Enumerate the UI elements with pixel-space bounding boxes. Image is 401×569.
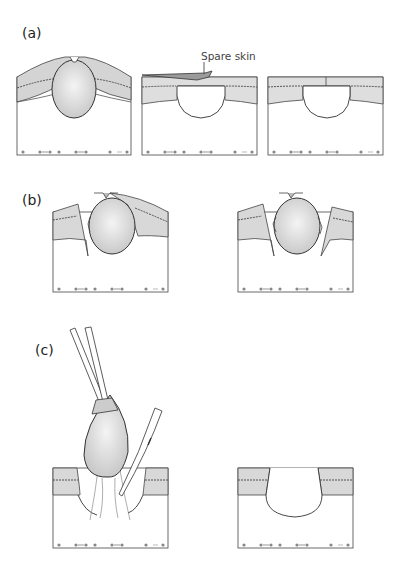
panel-b1 [53,193,168,292]
panel-c2 [238,468,353,548]
panel-a1 [17,57,131,155]
panel-b2 [238,193,353,292]
panel-a3 [268,77,383,155]
panel-a2 [142,62,257,155]
panel-c1 [53,327,168,548]
figure-illustration [0,0,401,569]
